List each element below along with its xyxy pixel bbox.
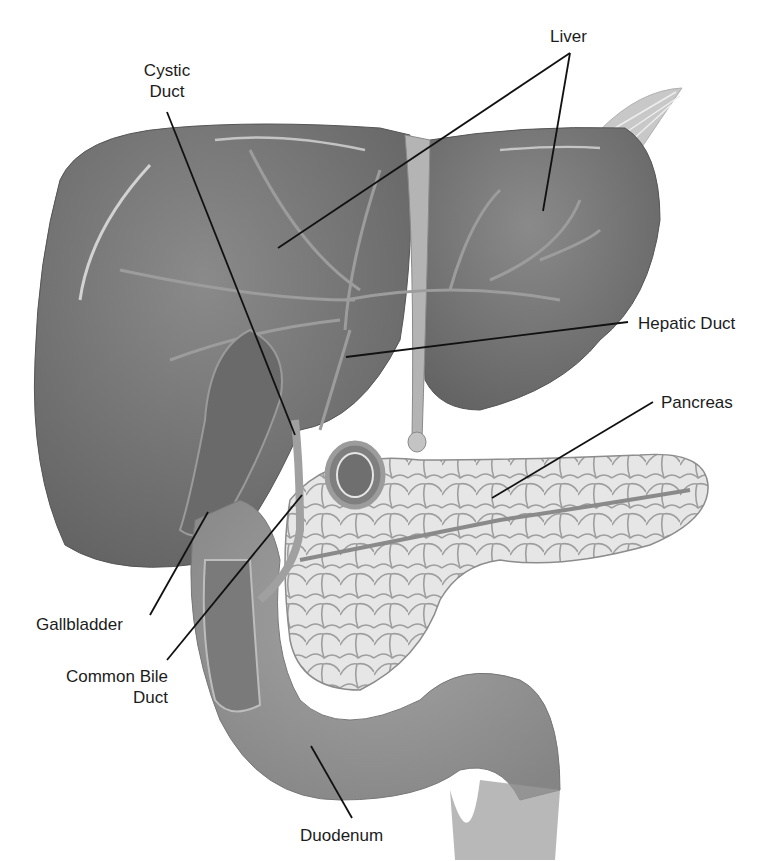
label-hepatic-duct: Hepatic Duct: [638, 313, 735, 334]
label-common-bile-duct: Common Bile Duct: [38, 666, 168, 708]
label-duodenum: Duodenum: [300, 825, 383, 846]
label-liver: Liver: [550, 26, 587, 47]
label-common-bile-duct-line1: Common Bile: [38, 666, 168, 687]
label-gallbladder: Gallbladder: [36, 614, 123, 635]
label-common-bile-duct-line2: Duct: [38, 687, 168, 708]
label-pancreas: Pancreas: [661, 392, 733, 413]
anatomy-diagram: Liver Cystic Duct Hepatic Duct Pancreas …: [0, 0, 777, 861]
label-cystic-duct: Cystic Duct: [136, 60, 198, 102]
anatomy-illustration: [0, 0, 777, 861]
label-cystic-duct-line1: Cystic: [136, 60, 198, 81]
label-cystic-duct-line2: Duct: [136, 81, 198, 102]
